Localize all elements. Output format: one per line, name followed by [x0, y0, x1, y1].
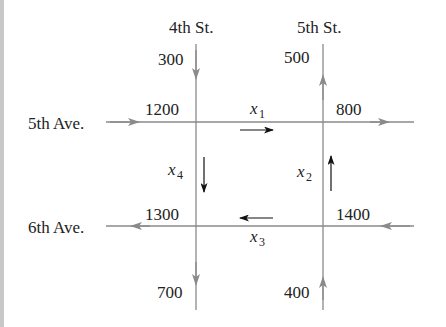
var-x4-base: x	[167, 160, 176, 179]
var-x4-sub: 4	[177, 168, 183, 182]
flow-6th-ave-in: 1400	[336, 205, 370, 224]
label-5th-st: 5th St.	[297, 18, 341, 37]
var-x1-base: x	[249, 99, 258, 118]
flow-5th-st-in: 400	[284, 283, 310, 302]
flow-5th-st-out: 500	[284, 48, 310, 67]
var-x2-sub: 2	[306, 170, 312, 184]
street-lines	[106, 44, 414, 310]
var-x3-base: x	[249, 227, 258, 246]
flow-5th-ave-in: 1200	[145, 100, 179, 119]
flow-6th-ave-out: 1300	[145, 205, 179, 224]
flow-4th-st-in: 300	[158, 50, 184, 69]
label-6th-ave: 6th Ave.	[28, 218, 84, 237]
label-4th-st: 4th St.	[169, 18, 213, 37]
variable-x2: x 2	[296, 162, 312, 184]
external-flow-arrows	[110, 50, 410, 300]
var-x1-sub: 1	[259, 107, 265, 121]
variable-x4: x 4	[167, 160, 183, 182]
flow-4th-st-out: 700	[157, 283, 183, 302]
label-5th-ave: 5th Ave.	[28, 114, 84, 133]
traffic-network-diagram: 4th St. 5th St. 5th Ave. 6th Ave. 300 50…	[0, 0, 446, 327]
var-x2-base: x	[296, 162, 305, 181]
flow-5th-ave-out: 800	[336, 100, 362, 119]
variable-x1: x 1	[249, 99, 265, 121]
var-x3-sub: 3	[259, 235, 265, 249]
variable-x3: x 3	[249, 227, 265, 249]
